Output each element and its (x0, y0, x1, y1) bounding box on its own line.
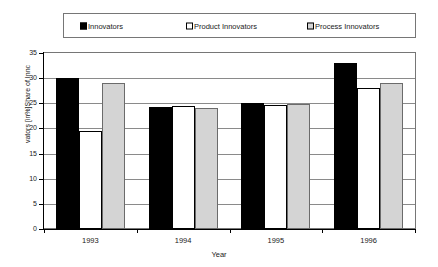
y-axis-tick-label: 15 (7, 150, 37, 157)
bar (195, 108, 218, 229)
x-axis-tick (230, 229, 231, 233)
y-axis-tick-label: 20 (7, 124, 37, 131)
legend-swatch-icon-innovators (80, 22, 87, 29)
y-axis-tick-label: 5 (7, 200, 37, 207)
bar (172, 106, 195, 229)
y-axis-tick (39, 103, 44, 104)
x-axis-tick (44, 229, 45, 233)
legend-label-innovators: Innovators (88, 21, 123, 30)
x-axis-tick (137, 229, 138, 233)
legend-swatch-icon-process-innovators (307, 22, 314, 29)
y-axis-tick (39, 78, 44, 79)
bar (79, 131, 102, 229)
bar (149, 107, 172, 229)
x-axis-tick-label: 1994 (153, 236, 213, 245)
y-axis-tick-label: 25 (7, 99, 37, 106)
bar (334, 63, 357, 229)
legend-label-product-innovators: Product Innovators (194, 21, 257, 30)
chart-legend: Innovators Product Innovators Process In… (63, 13, 416, 38)
x-axis-tick (322, 229, 323, 233)
y-axis-title: vators [in%]Share of Innc (24, 29, 32, 179)
y-axis-tick-label: 35 (7, 49, 37, 56)
y-axis-tick (39, 154, 44, 155)
bars-layer (44, 53, 415, 229)
y-axis-tick (39, 53, 44, 54)
y-axis-tick-label: 10 (7, 175, 37, 182)
bar-chart: Innovators Product Innovators Process In… (0, 0, 438, 267)
bar (287, 104, 310, 229)
legend-swatch-icon-product-innovators (186, 22, 193, 29)
legend-entry-product-innovators: Product Innovators (186, 21, 257, 30)
x-axis-tick (415, 229, 416, 233)
x-axis-tick-label: 1995 (246, 236, 306, 245)
x-axis-title: Year (0, 250, 438, 259)
legend-label-process-innovators: Process Innovators (315, 21, 379, 30)
bar (357, 88, 380, 229)
bar (264, 105, 287, 229)
legend-entry-process-innovators: Process Innovators (307, 21, 379, 30)
y-axis-tick (39, 128, 44, 129)
y-axis-tick (39, 179, 44, 180)
y-axis-tick-label: 0 (7, 225, 37, 232)
legend-entry-innovators: Innovators (80, 21, 123, 30)
y-axis-tick (39, 204, 44, 205)
y-axis-tick-label: 30 (7, 74, 37, 81)
bar (102, 83, 125, 229)
bar (380, 83, 403, 229)
x-axis-tick-label: 1996 (339, 236, 399, 245)
bar (56, 78, 79, 229)
x-axis-tick-label: 1993 (60, 236, 120, 245)
bar (241, 103, 264, 229)
